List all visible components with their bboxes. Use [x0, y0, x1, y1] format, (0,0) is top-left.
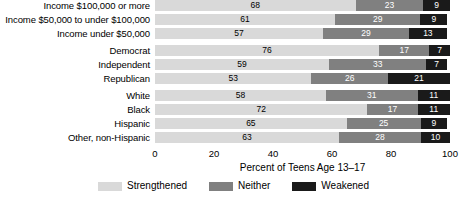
segment-neither: 17: [367, 104, 417, 115]
stacked-bar: 58 31 11: [155, 90, 450, 101]
segment-neither: 26: [311, 73, 388, 84]
segment-value: 72: [256, 104, 265, 115]
row-label: Democrat: [0, 45, 155, 56]
segment-strengthened: 59: [155, 59, 329, 70]
row-label: Income under $50,000: [0, 28, 155, 39]
x-axis-tick: 60: [327, 148, 338, 160]
stacked-bar: 76 17 7: [155, 45, 450, 56]
stacked-bar: 72 17 11: [155, 104, 450, 115]
x-axis-tick: 40: [268, 148, 279, 160]
table-row: Republican 53 26 21: [0, 73, 467, 84]
segment-neither: 33: [329, 59, 426, 70]
table-row: Income $100,000 or more 68 23 9: [0, 0, 467, 11]
segment-strengthened: 53: [155, 73, 311, 84]
row-label: Income $50,000 to under $100,000: [0, 14, 155, 25]
segment-neither: 31: [326, 90, 417, 101]
segment-strengthened: 65: [155, 118, 347, 129]
bar-group-race-ethnicity: White 58 31 11 Black 72: [0, 90, 467, 143]
legend-item-weakened: Weakened: [292, 180, 369, 192]
segment-value: 9: [434, 0, 439, 11]
stacked-bar: 57 29 13: [155, 28, 450, 39]
segment-value: 9: [431, 14, 436, 25]
segment-value: 31: [367, 90, 376, 101]
segment-value: 25: [379, 118, 388, 129]
x-axis: 0 20 40 60 80 100: [155, 148, 450, 162]
segment-strengthened: 61: [155, 14, 335, 25]
segment-strengthened: 72: [155, 104, 367, 115]
segment-value: 33: [373, 59, 382, 70]
table-row: Income $50,000 to under $100,000 61 29 9: [0, 14, 467, 25]
segment-value: 26: [345, 73, 354, 84]
row-label: Hispanic: [0, 118, 155, 129]
segment-value: 29: [361, 28, 370, 39]
segment-weakened: 11: [418, 104, 450, 115]
segment-value: 61: [240, 14, 249, 25]
segment-weakened: 7: [426, 59, 447, 70]
segment-value: 23: [385, 0, 394, 11]
segment-weakened: 11: [418, 90, 450, 101]
row-label: Independent: [0, 59, 155, 70]
segment-value: 9: [431, 118, 436, 129]
stacked-bar: 63 28 10: [155, 132, 450, 143]
x-axis-tick: 80: [386, 148, 397, 160]
segment-neither: 23: [356, 0, 424, 11]
segment-value: 28: [375, 132, 384, 143]
table-row: Black 72 17 11: [0, 104, 467, 115]
table-row: Income under $50,000 57 29 13: [0, 28, 467, 39]
segment-value: 10: [431, 132, 440, 143]
segment-weakened: 9: [423, 0, 450, 11]
segment-value: 11: [429, 90, 438, 101]
stacked-bar: 53 26 21: [155, 73, 450, 84]
segment-weakened: 21: [388, 73, 450, 84]
bar-group-income: Income $100,000 or more 68 23 9 Income $…: [0, 0, 467, 39]
x-axis-tick: 20: [209, 148, 220, 160]
segment-value: 21: [414, 73, 423, 84]
row-label: White: [0, 90, 155, 101]
stacked-bar: 65 25 9: [155, 118, 450, 129]
segment-value: 58: [236, 90, 245, 101]
segment-neither: 29: [323, 28, 409, 39]
legend-swatch-icon: [98, 182, 122, 191]
row-label: Black: [0, 104, 155, 115]
x-axis-tick: 100: [442, 148, 458, 160]
segment-value: 63: [242, 132, 251, 143]
segment-value: 7: [434, 59, 439, 70]
table-row: Democrat 76 17 7: [0, 45, 467, 56]
stacked-bar: 59 33 7: [155, 59, 450, 70]
segment-strengthened: 58: [155, 90, 326, 101]
segment-value: 53: [228, 73, 237, 84]
legend-swatch-icon: [292, 182, 316, 191]
legend-label: Neither: [238, 180, 270, 192]
segment-weakened: 10: [421, 132, 450, 143]
segment-weakened: 9: [420, 14, 447, 25]
table-row: Independent 59 33 7: [0, 59, 467, 70]
x-axis-tick: 0: [152, 148, 157, 160]
segment-value: 11: [429, 104, 438, 115]
segment-value: 59: [237, 59, 246, 70]
legend-label: Strengthened: [127, 180, 187, 192]
row-label: Republican: [0, 73, 155, 84]
legend-item-neither: Neither: [209, 180, 270, 192]
legend-item-strengthened: Strengthened: [98, 180, 187, 192]
x-axis-title: Percent of Teens Age 13–17: [155, 161, 450, 174]
stacked-bar: 68 23 9: [155, 0, 450, 11]
stacked-bar-chart: Income $100,000 or more 68 23 9 Income $…: [0, 0, 467, 206]
segment-value: 17: [400, 45, 409, 56]
segment-strengthened: 57: [155, 28, 323, 39]
table-row: Other, non-Hispanic 63 28 10: [0, 132, 467, 143]
segment-weakened: 7: [429, 45, 450, 56]
segment-value: 76: [262, 45, 271, 56]
table-row: Hispanic 65 25 9: [0, 118, 467, 129]
segment-strengthened: 68: [155, 0, 356, 11]
row-label: Income $100,000 or more: [0, 0, 155, 11]
segment-value: 17: [388, 104, 397, 115]
segment-neither: 28: [339, 132, 421, 143]
legend-swatch-icon: [209, 182, 233, 191]
segment-value: 65: [246, 118, 255, 129]
segment-neither: 17: [379, 45, 429, 56]
legend: Strengthened Neither Weakened: [0, 180, 467, 192]
plot-area: Income $100,000 or more 68 23 9 Income $…: [0, 0, 467, 148]
segment-neither: 29: [335, 14, 421, 25]
segment-value: 68: [251, 0, 260, 11]
stacked-bar: 61 29 9: [155, 14, 450, 25]
